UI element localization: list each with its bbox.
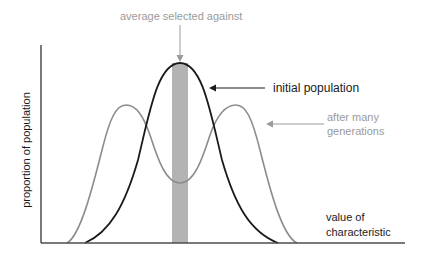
x-axis-label-line1: value of — [326, 210, 365, 224]
y-axis-label: proportion of population — [20, 92, 32, 208]
x-axis-label-line2: characteristic — [326, 225, 391, 239]
after-generations-arrow — [266, 121, 324, 128]
average-arrow — [177, 25, 184, 62]
initial-population-label: initial population — [273, 81, 359, 95]
after-generations-label-line1: after many — [327, 110, 379, 124]
average-selected-against-label: average selected against — [120, 9, 242, 23]
selected-against-bar — [172, 63, 188, 243]
after-generations-label-line2: generations — [327, 124, 385, 138]
initial-population-arrow — [209, 85, 265, 92]
